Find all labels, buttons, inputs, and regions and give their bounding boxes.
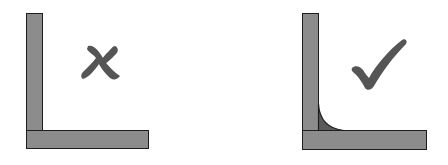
cross-icon	[0, 0, 224, 165]
panel-sharp-corner	[0, 0, 224, 165]
check-icon	[224, 0, 448, 165]
panel-filleted-corner	[224, 0, 448, 165]
